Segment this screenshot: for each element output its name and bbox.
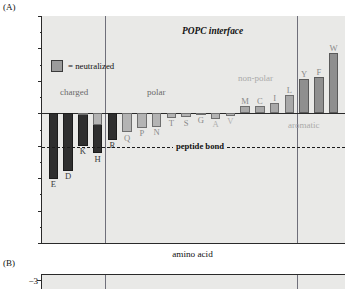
bar-label-H: H bbox=[90, 154, 105, 164]
bar-label-R: R bbox=[105, 140, 120, 150]
bar-C[interactable] bbox=[255, 106, 265, 114]
group-charged: charged bbox=[60, 87, 88, 97]
bar-T[interactable] bbox=[167, 113, 177, 118]
bar-Y[interactable] bbox=[299, 79, 309, 113]
bar-label-C: C bbox=[253, 96, 268, 106]
bar-E[interactable] bbox=[49, 113, 59, 179]
bar-label-W: W bbox=[326, 43, 341, 53]
y-tick-2 bbox=[38, 178, 42, 179]
group-nonpolar: non-polar bbox=[238, 73, 273, 83]
group-polar: polar bbox=[147, 87, 166, 97]
bar-neutralized-H[interactable] bbox=[93, 113, 103, 124]
plot-area-a: −3−2−101234 EDKHRQPNTSGAVMCILYFW peptide… bbox=[41, 16, 345, 244]
bar-L[interactable] bbox=[285, 95, 295, 113]
bar-neutralized-K[interactable] bbox=[78, 113, 88, 115]
bar-N[interactable] bbox=[152, 113, 162, 127]
y-tick-minor bbox=[40, 227, 43, 228]
bar-R[interactable] bbox=[108, 113, 118, 140]
bar-A[interactable] bbox=[211, 113, 221, 119]
bar-label-L: L bbox=[282, 85, 297, 95]
panel-b-separator-2 bbox=[297, 275, 298, 289]
y-tick-3 bbox=[38, 211, 42, 212]
peptide-bond-label: peptide bond bbox=[173, 141, 227, 151]
bar-label-I: I bbox=[267, 93, 282, 103]
bar-label-A: A bbox=[208, 119, 223, 129]
bar-label-G: G bbox=[194, 115, 209, 125]
bar-label-Q: Q bbox=[120, 133, 135, 143]
panel-b-separator-1 bbox=[105, 275, 106, 289]
bar-label-D: D bbox=[61, 171, 76, 181]
legend-label-neutralized: = neutralized bbox=[68, 61, 114, 71]
bar-S[interactable] bbox=[181, 113, 191, 117]
panel-b-ytick-label: −3 bbox=[18, 276, 38, 286]
bar-label-Y: Y bbox=[297, 69, 312, 79]
bar-label-P: P bbox=[135, 128, 150, 138]
bar-label-F: F bbox=[312, 67, 327, 77]
legend-swatch-neutralized bbox=[51, 60, 63, 72]
y-tick-−2 bbox=[38, 48, 42, 49]
panel-b-letter: (B) bbox=[3, 258, 15, 268]
y-tick-minor bbox=[40, 32, 43, 33]
y-tick-−1 bbox=[38, 81, 42, 82]
bar-I[interactable] bbox=[270, 103, 280, 113]
panel-a: (A) ΔG (from water, kcal mol−1) −3−2−101… bbox=[0, 0, 344, 252]
y-tick-minor bbox=[40, 130, 43, 131]
bar-label-S: S bbox=[179, 118, 194, 128]
bar-P[interactable] bbox=[137, 113, 147, 128]
bar-label-M: M bbox=[238, 96, 253, 106]
y-tick-−3 bbox=[38, 16, 42, 17]
group-separator-1 bbox=[105, 16, 106, 243]
plot-area-b bbox=[41, 274, 345, 289]
y-tick-minor bbox=[40, 162, 43, 163]
plot-title: POPC interface bbox=[182, 26, 243, 36]
bar-label-E: E bbox=[46, 179, 61, 189]
legend: = neutralized bbox=[51, 60, 114, 72]
y-tick-minor bbox=[40, 97, 43, 98]
bar-D[interactable] bbox=[63, 113, 73, 170]
bar-F[interactable] bbox=[314, 77, 324, 114]
bar-K[interactable] bbox=[78, 113, 88, 145]
panel-a-letter: (A) bbox=[3, 2, 16, 12]
bar-label-N: N bbox=[149, 127, 164, 137]
bar-W[interactable] bbox=[329, 53, 339, 113]
bar-label-V: V bbox=[223, 116, 238, 126]
bar-M[interactable] bbox=[240, 106, 250, 113]
group-aromatic: aromatic bbox=[288, 120, 319, 130]
bar-Q[interactable] bbox=[122, 113, 132, 132]
y-tick-minor bbox=[40, 65, 43, 66]
panel-b: (B) −3 bbox=[0, 258, 344, 288]
y-tick-4 bbox=[38, 243, 42, 244]
bar-label-T: T bbox=[164, 118, 179, 128]
y-tick-minor bbox=[40, 194, 43, 195]
